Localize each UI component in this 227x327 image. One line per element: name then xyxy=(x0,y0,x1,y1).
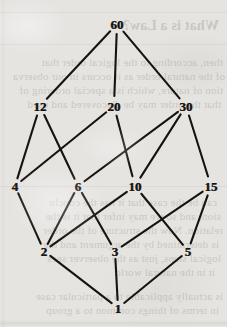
hasse-node-30: 30 xyxy=(180,100,193,113)
hasse-edge-12-6 xyxy=(44,115,74,179)
hasse-node-3: 3 xyxy=(112,245,119,258)
hasse-edge-60-20 xyxy=(114,34,116,96)
hasse-edge-2-1 xyxy=(50,256,111,303)
hasse-edge-3-1 xyxy=(115,259,117,300)
hasse-edge-60-12 xyxy=(47,31,110,98)
hasse-node-20: 20 xyxy=(108,100,121,113)
hasse-node-60: 60 xyxy=(111,18,124,31)
hasse-node-4: 4 xyxy=(12,180,19,193)
hasse-edge-30-15 xyxy=(189,116,208,177)
hasse-edge-60-30 xyxy=(123,32,179,99)
hasse-diagram-edges xyxy=(0,0,227,327)
scanned-figure: What is a Law?then, according to the log… xyxy=(0,0,227,327)
hasse-edge-4-2 xyxy=(18,193,40,243)
hasse-node-12: 12 xyxy=(34,100,47,113)
hasse-node-6: 6 xyxy=(75,180,82,193)
hasse-edge-5-1 xyxy=(124,256,182,303)
hasse-edge-15-3 xyxy=(122,192,203,247)
hasse-node-5: 5 xyxy=(185,245,192,258)
hasse-edge-6-2 xyxy=(48,193,75,244)
hasse-edge-10-2 xyxy=(51,192,127,247)
hasse-edge-6-3 xyxy=(82,193,111,244)
hasse-node-15: 15 xyxy=(205,180,218,193)
hasse-node-2: 2 xyxy=(41,245,48,258)
hasse-node-10: 10 xyxy=(129,180,142,193)
hasse-edge-12-4 xyxy=(17,116,37,179)
hasse-node-1: 1 xyxy=(115,302,122,315)
hasse-edge-15-5 xyxy=(191,195,208,243)
hasse-edge-20-10 xyxy=(117,116,133,177)
